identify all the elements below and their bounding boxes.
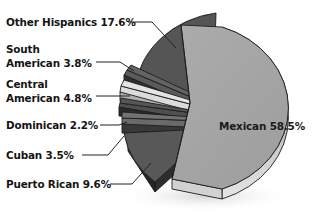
label-south-american-line2: American 3.8% <box>6 57 92 69</box>
slice-mexican[interactable] <box>172 25 288 199</box>
label-cuban: Cuban 3.5% <box>6 149 75 161</box>
pie-chart-figure: Other Hispanics 17.6% South American 3.8… <box>0 0 325 220</box>
label-other-hispanics: Other Hispanics 17.6% <box>6 16 136 28</box>
label-central-american-line1: Central <box>6 78 48 90</box>
label-central-american-line2: American 4.8% <box>6 92 92 104</box>
pie-chart-svg: Other Hispanics 17.6% South American 3.8… <box>0 0 325 220</box>
label-south-american-line1: South <box>6 43 40 55</box>
leader-line-cuban <box>82 136 124 155</box>
label-puerto-rican: Puerto Rican 9.6% <box>6 178 112 190</box>
label-dominican: Dominican 2.2% <box>6 119 99 131</box>
label-mexican: Mexican 58.5% <box>219 120 306 132</box>
